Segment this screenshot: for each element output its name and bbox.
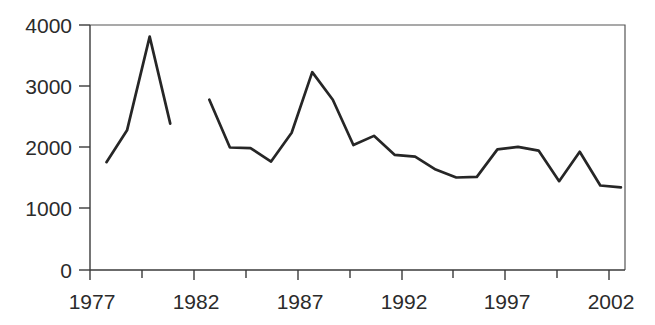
plot-frame bbox=[90, 25, 625, 270]
x-tick-label-1997: 1997 bbox=[484, 290, 531, 313]
x-tick-label-2002: 2002 bbox=[588, 290, 635, 313]
frame-top-right bbox=[90, 25, 625, 270]
y-tick-label-4000: 4000 bbox=[25, 14, 72, 37]
y-tick-label-3000: 3000 bbox=[25, 75, 72, 98]
x-tick-label-1987: 1987 bbox=[277, 290, 324, 313]
chart-container: 4000 3000 2000 1000 0 1977 1982 1987 199… bbox=[0, 0, 655, 325]
x-tick-label-1982: 1982 bbox=[173, 290, 220, 313]
x-axis: 1977 1982 1987 1992 1997 2002 bbox=[69, 270, 635, 313]
line-chart: 4000 3000 2000 1000 0 1977 1982 1987 199… bbox=[0, 0, 655, 325]
x-tick-label-1977: 1977 bbox=[69, 290, 116, 313]
x-tick-label-1992: 1992 bbox=[381, 290, 428, 313]
y-tick-label-2000: 2000 bbox=[25, 136, 72, 159]
data-line-segment-2 bbox=[209, 72, 621, 187]
y-tick-label-1000: 1000 bbox=[25, 197, 72, 220]
y-axis: 4000 3000 2000 1000 0 bbox=[25, 14, 90, 282]
y-tick-label-0: 0 bbox=[60, 259, 72, 282]
data-series-group bbox=[106, 37, 620, 188]
data-line-segment-1 bbox=[106, 37, 170, 163]
